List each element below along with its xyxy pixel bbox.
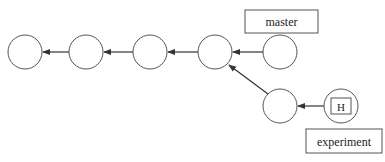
commit-node[interactable] xyxy=(263,89,297,123)
git-branch-diagram: master H experiment xyxy=(0,0,385,162)
branch-label-master-text: master xyxy=(266,15,298,29)
commit-node[interactable] xyxy=(69,35,103,69)
commit-node[interactable] xyxy=(198,35,232,69)
branch-label-experiment-text: experiment xyxy=(317,135,372,149)
branch-label-master[interactable]: master xyxy=(245,10,318,33)
head-marker[interactable]: H xyxy=(331,98,351,114)
commit-node[interactable] xyxy=(133,35,167,69)
commit-node[interactable] xyxy=(8,35,42,69)
edge-c6-to-c4 xyxy=(229,65,268,94)
branch-label-experiment[interactable]: experiment xyxy=(306,129,382,153)
commits xyxy=(8,35,358,123)
commit-node-master-tip[interactable] xyxy=(263,35,297,69)
head-marker-text: H xyxy=(337,101,345,113)
